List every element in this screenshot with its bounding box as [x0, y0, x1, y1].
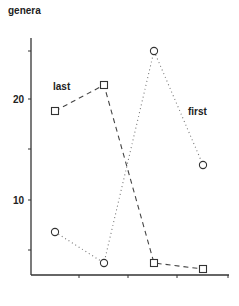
y-axis-label: genera: [8, 5, 41, 16]
marker-circle: [150, 47, 157, 54]
marker-square: [200, 266, 207, 273]
line-chart: genera 20 10 last first: [0, 0, 239, 306]
marker-square: [151, 260, 158, 267]
series-last: [52, 82, 207, 273]
annotation-first: first: [188, 106, 208, 117]
marker-circle: [199, 161, 206, 168]
y-tick-label-20: 20: [13, 94, 25, 105]
marker-circle: [100, 259, 107, 266]
series-first: [51, 47, 206, 266]
marker-square: [101, 82, 108, 89]
y-tick-label-10: 10: [13, 195, 25, 206]
marker-square: [52, 108, 59, 115]
marker-circle: [51, 228, 58, 235]
annotation-last: last: [53, 81, 71, 92]
